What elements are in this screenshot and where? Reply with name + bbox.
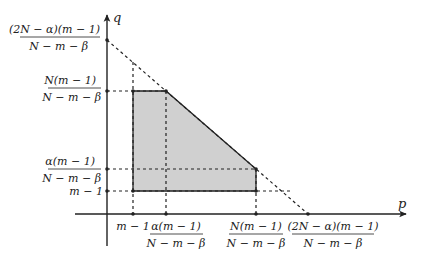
y-tick-N-den: N − m − β xyxy=(41,91,101,104)
y-tick-alpha-den: N − m − β xyxy=(41,172,101,185)
y-tick-m: m − 1 xyxy=(69,185,103,198)
y-tick-N: N(m − 1) N − m − β xyxy=(41,74,101,104)
vertex-4 xyxy=(254,189,258,193)
y-tick-N-num: N(m − 1) xyxy=(43,74,96,87)
x-tick-top-num: (2N − α)(m − 1) xyxy=(287,220,378,233)
dot-x-m xyxy=(131,212,135,216)
x-tick-top-den: N − m − β xyxy=(303,237,363,250)
y-axis-label: q xyxy=(113,10,121,25)
y-tick-top-num: (2N − α)(m − 1) xyxy=(9,23,100,36)
dot-x-N xyxy=(254,212,258,216)
y-tick-alpha-num: α(m − 1) xyxy=(45,155,95,168)
dot-x-alpha xyxy=(164,212,168,216)
vertex-2 xyxy=(164,89,168,93)
dot-y-m xyxy=(105,189,109,193)
y-tick-top-den: N − m − β xyxy=(28,40,88,53)
y-tick-top: (2N − α)(m − 1) N − m − β xyxy=(9,23,100,53)
feasible-region-diagram: p q (2N − α)(m − 1) N − m − β N(m − 1) N… xyxy=(0,0,430,262)
vertex-5 xyxy=(131,189,135,193)
x-tick-N-num: N(m − 1) xyxy=(229,220,282,233)
y-tick-alpha: α(m − 1) N − m − β xyxy=(41,155,101,185)
dot-y-alpha xyxy=(105,167,109,171)
x-tick-alpha-num: α(m − 1) xyxy=(151,220,201,233)
dot-y-N xyxy=(105,89,109,93)
feasible-region xyxy=(133,91,256,191)
x-tick-alpha: α(m − 1) N − m − β xyxy=(146,220,206,250)
x-tick-alpha-den: N − m − β xyxy=(146,237,206,250)
x-tick-top: (2N − α)(m − 1) N − m − β xyxy=(287,220,378,250)
x-tick-N: N(m − 1) N − m − β xyxy=(226,220,286,250)
x-axis-label: p xyxy=(398,196,407,211)
vertex-1 xyxy=(131,89,135,93)
x-tick-m: m − 1 xyxy=(116,220,150,233)
dot-x-top xyxy=(306,212,310,216)
x-tick-N-den: N − m − β xyxy=(226,237,286,250)
dot-y-top xyxy=(105,38,109,42)
vertex-3 xyxy=(254,167,258,171)
